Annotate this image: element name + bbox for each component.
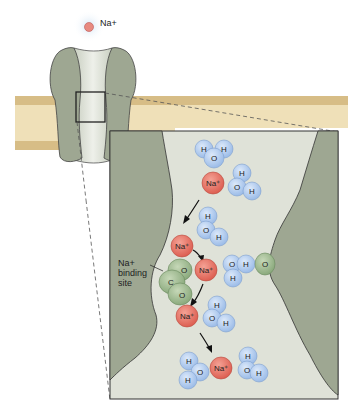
top-ion-label: Na+: [100, 18, 117, 28]
svg-text:H: H: [216, 233, 222, 242]
svg-text:H: H: [256, 369, 262, 378]
top-ion-label-text: Na+: [100, 18, 117, 28]
svg-text:Na⁺: Na⁺: [206, 179, 220, 188]
svg-text:H: H: [214, 301, 220, 310]
svg-text:H: H: [243, 260, 249, 269]
svg-text:O: O: [179, 291, 185, 300]
svg-text:H: H: [239, 169, 245, 178]
sodium-ion: Na⁺: [210, 357, 232, 379]
svg-text:O: O: [244, 366, 250, 375]
binding-site-label-line1: Na+: [118, 258, 147, 268]
svg-text:O: O: [229, 260, 235, 269]
svg-text:O: O: [211, 154, 217, 163]
sodium-ion: Na⁺: [202, 172, 224, 194]
svg-text:O: O: [234, 183, 240, 192]
binding-site-label-line3: site: [118, 278, 147, 288]
sodium-ion: Na⁺: [195, 259, 217, 281]
sodium-ion: Na⁺: [176, 305, 198, 327]
svg-text:O: O: [203, 226, 209, 235]
svg-text:Na⁺: Na⁺: [180, 312, 194, 321]
svg-text:O: O: [181, 266, 187, 275]
svg-text:C: C: [168, 278, 174, 287]
svg-text:H: H: [201, 145, 207, 154]
svg-text:H: H: [230, 274, 236, 283]
svg-text:H: H: [221, 145, 227, 154]
svg-text:H: H: [245, 352, 251, 361]
svg-text:H: H: [223, 319, 229, 328]
ion-channel-diagram: H H O Na⁺ H O H H O H Na⁺: [0, 0, 348, 405]
svg-text:O: O: [197, 368, 203, 377]
svg-text:H: H: [186, 357, 192, 366]
svg-text:H: H: [205, 212, 211, 221]
svg-text:Na⁺: Na⁺: [199, 266, 213, 275]
svg-text:O: O: [262, 260, 268, 269]
opposite-residue: O: [255, 253, 275, 275]
binding-site-label: Na+ binding site: [118, 258, 147, 288]
svg-text:H: H: [249, 187, 255, 196]
svg-text:Na⁺: Na⁺: [214, 364, 228, 373]
svg-text:H: H: [185, 376, 191, 385]
svg-text:O: O: [209, 314, 215, 323]
sodium-ion: Na⁺: [171, 235, 193, 257]
svg-text:Na⁺: Na⁺: [175, 242, 189, 251]
binding-site-label-line2: binding: [118, 268, 147, 278]
